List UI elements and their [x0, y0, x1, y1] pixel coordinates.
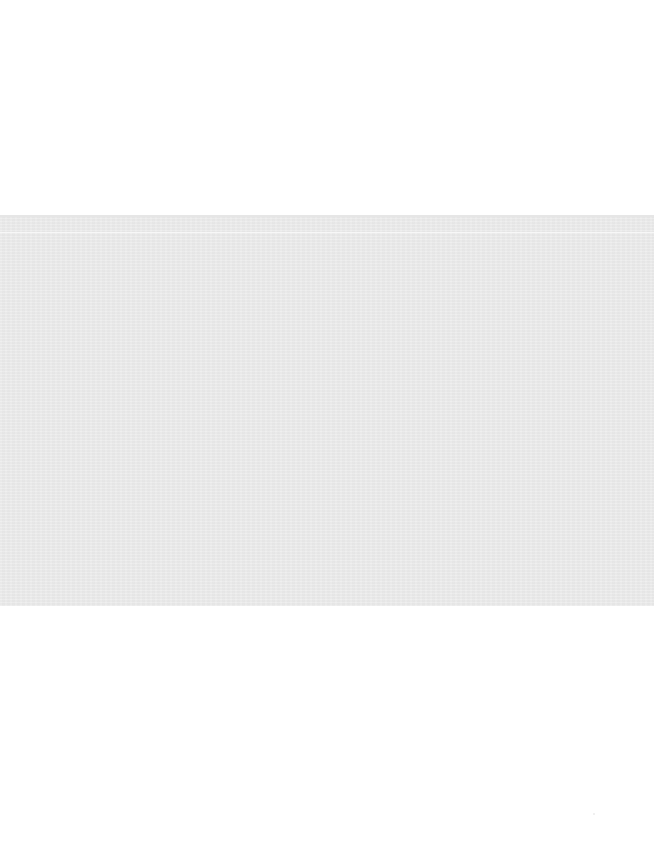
band-top-edge — [0, 215, 654, 217]
band-highlight-line — [0, 232, 654, 233]
speck-mark — [593, 813, 595, 815]
gray-band — [0, 215, 654, 606]
blank-page — [0, 0, 654, 867]
